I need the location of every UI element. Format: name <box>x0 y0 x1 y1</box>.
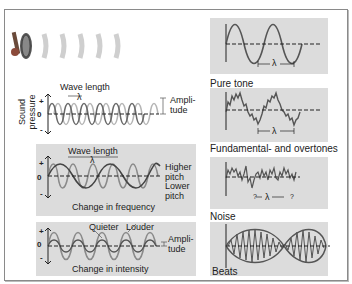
speaker-icon <box>10 28 150 78</box>
overtones-caption: Fundamental- and overtones <box>210 143 338 154</box>
minus-sign: - <box>40 254 43 262</box>
amplitude-label: Ampli- tude <box>170 95 196 115</box>
intensity-caption: Change in intensity <box>72 264 149 274</box>
unknown-left: ? <box>253 192 257 202</box>
lambda-label: λ <box>272 58 277 68</box>
zero-sign: 0 <box>37 241 41 249</box>
lower-pitch-label: Lower pitch <box>165 181 190 201</box>
noise-caption: Noise <box>210 211 236 222</box>
plus-sign: + <box>39 228 44 236</box>
beats-caption: Beats <box>212 266 238 277</box>
intensity-wave-chart <box>44 228 169 264</box>
unknown-right: ? <box>290 192 294 202</box>
frequency-wave-chart <box>44 156 164 198</box>
minus-sign: - <box>40 126 43 134</box>
plus-sign: + <box>39 98 44 106</box>
minus-sign: - <box>40 190 43 198</box>
zero-sign: 0 <box>37 111 41 119</box>
noise-chart <box>222 160 328 204</box>
frequency-caption: Change in frequency <box>72 202 155 212</box>
lambda-label: λ <box>272 126 277 136</box>
amplitude-label: Ampli- tude <box>168 234 194 254</box>
higher-pitch-label: Higher pitch <box>165 162 192 182</box>
plus-sign: + <box>39 160 44 168</box>
lambda-label: λ <box>265 192 270 202</box>
zero-sign: 0 <box>37 174 41 182</box>
wavelength-label: Wave length <box>60 82 110 92</box>
beats-chart <box>222 224 328 270</box>
basic-wave-chart <box>44 94 164 134</box>
y-axis-label: Sound pressure <box>17 87 37 137</box>
